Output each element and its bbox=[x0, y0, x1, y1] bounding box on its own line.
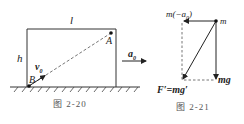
effective-gravity-label: F′=mg′ bbox=[157, 85, 188, 95]
velocity-label: v0 bbox=[35, 62, 42, 74]
gravity-label: mg bbox=[218, 75, 231, 85]
height-label: h bbox=[17, 53, 23, 64]
figure-2-21 bbox=[182, 19, 218, 80]
inertial-force-label: m(−a0) bbox=[166, 10, 192, 21]
ground-hatching bbox=[14, 87, 138, 92]
mass-dot bbox=[214, 19, 218, 23]
figure-2-21-caption: 图 2-21 bbox=[176, 100, 210, 113]
point-b-label: B bbox=[29, 75, 35, 85]
point-a-label: A bbox=[106, 36, 112, 46]
length-label: l bbox=[70, 15, 73, 26]
mass-label: m bbox=[220, 17, 227, 26]
effective-gravity-arrow bbox=[183, 21, 216, 79]
figure-2-20-caption: 图 2-20 bbox=[53, 97, 87, 110]
acceleration-label: a0 bbox=[128, 49, 136, 61]
